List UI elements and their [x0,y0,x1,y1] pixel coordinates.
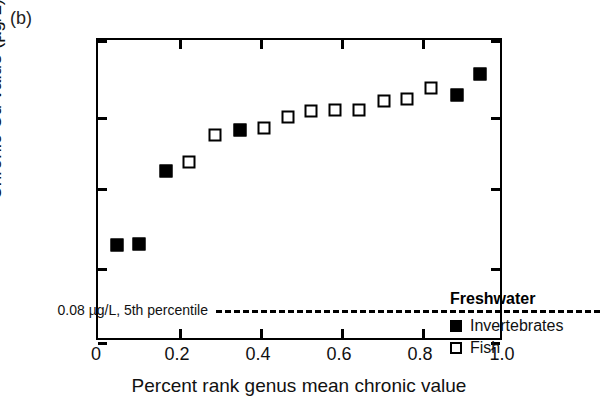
threshold-label: 0.08 µg/L, 5th percentile [58,302,213,318]
y-tick-right [491,268,500,271]
data-point-fish [209,129,222,142]
data-point-fish [183,156,196,169]
legend: Freshwater Invertebrates Fish [450,290,600,357]
filled-square-icon [450,320,462,332]
data-point-fish [378,95,391,108]
data-point-invertebrates [133,238,146,251]
x-axis-title: Percent rank genus mean chronic value [132,375,467,397]
data-point-invertebrates [234,124,247,137]
x-tick-label: 0 [91,344,101,365]
data-point-invertebrates [474,68,487,81]
y-tick-left [98,117,107,120]
y-tick-right [491,117,500,120]
x-tick-label: 0.6 [326,344,351,365]
y-axis-title: Chronic Cd value (µg/L) [0,0,6,200]
data-point-fish [282,111,295,124]
y-tick-left [98,40,107,43]
data-point-fish [425,82,438,95]
x-tick-bottom [260,329,263,338]
x-tick-top [422,40,425,49]
x-tick-bottom [179,329,182,338]
y-tick-left [98,188,107,191]
data-point-invertebrates [111,239,124,252]
y-tick-right [491,188,500,191]
data-point-fish [305,105,318,118]
x-tick-bottom [422,329,425,338]
legend-item-invertebrates: Invertebrates [450,317,600,335]
x-tick-bottom [341,329,344,338]
legend-item-label: Invertebrates [470,317,563,335]
y-tick-right [491,40,500,43]
data-point-fish [258,122,271,135]
data-point-fish [329,104,342,117]
x-tick-top [341,40,344,49]
x-tick-label: 0.8 [407,344,432,365]
x-tick-top [260,40,263,49]
panel-label: (b) [10,8,32,29]
data-point-fish [353,104,366,117]
y-tick-left [98,268,107,271]
legend-item-fish: Fish [450,339,600,357]
data-point-invertebrates [451,89,464,102]
x-tick-label: 0.2 [164,344,189,365]
data-point-invertebrates [160,165,173,178]
plot-area: 0.08 µg/L, 5th percentile Freshwater Inv… [96,38,502,340]
x-tick-label: 1.0 [489,344,514,365]
x-tick-top [179,40,182,49]
open-square-icon [450,342,462,354]
data-point-fish [401,93,414,106]
x-tick-label: 0.4 [245,344,270,365]
legend-title: Freshwater [450,290,600,308]
